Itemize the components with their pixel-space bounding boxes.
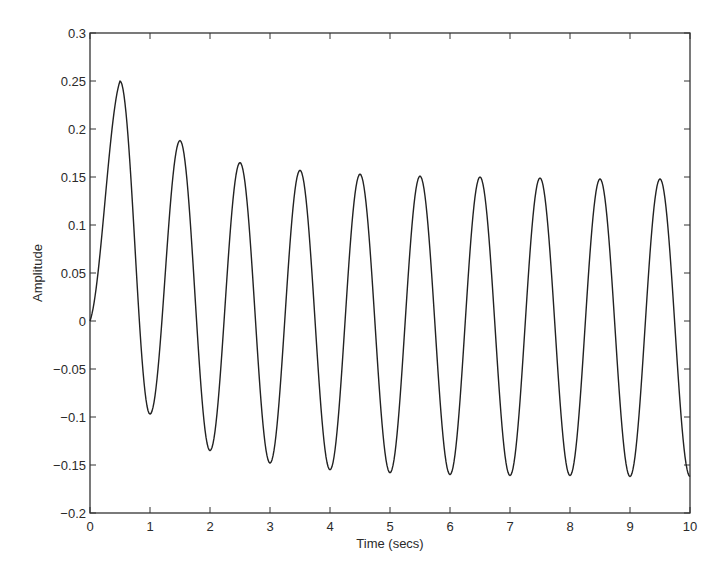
x-tick-label: 7	[506, 519, 513, 534]
x-axis-label: Time (secs)	[356, 536, 423, 551]
y-tick-label: −0.05	[53, 362, 86, 377]
y-tick-label: 0.15	[61, 170, 86, 185]
x-tick-label: 10	[683, 519, 697, 534]
y-tick-label: −0.2	[60, 506, 86, 521]
x-tick-label: 8	[566, 519, 573, 534]
y-tick-label: 0	[79, 314, 86, 329]
x-tick-label: 5	[386, 519, 393, 534]
chart: 012345678910 −0.2−0.15−0.1−0.0500.050.10…	[0, 0, 723, 584]
x-tick-label: 9	[626, 519, 633, 534]
response-curve	[90, 81, 690, 477]
y-tick-label: −0.1	[60, 410, 86, 425]
x-tick-label: 6	[446, 519, 453, 534]
y-axis-label: Amplitude	[30, 244, 45, 302]
x-tick-label: 0	[86, 519, 93, 534]
y-tick-label: 0.3	[68, 26, 86, 41]
y-tick-label: −0.15	[53, 458, 86, 473]
y-tick-label: 0.05	[61, 266, 86, 281]
x-tick-label: 3	[266, 519, 273, 534]
axes-frame	[90, 33, 690, 513]
y-tick-label: 0.25	[61, 74, 86, 89]
x-tick-label: 2	[206, 519, 213, 534]
x-tick-label: 4	[326, 519, 333, 534]
y-tick-label: 0.1	[68, 218, 86, 233]
y-tick-label: 0.2	[68, 122, 86, 137]
plot-area: 012345678910 −0.2−0.15−0.1−0.0500.050.10…	[53, 26, 697, 534]
x-axis-ticks: 012345678910	[86, 33, 697, 534]
x-tick-label: 1	[146, 519, 153, 534]
